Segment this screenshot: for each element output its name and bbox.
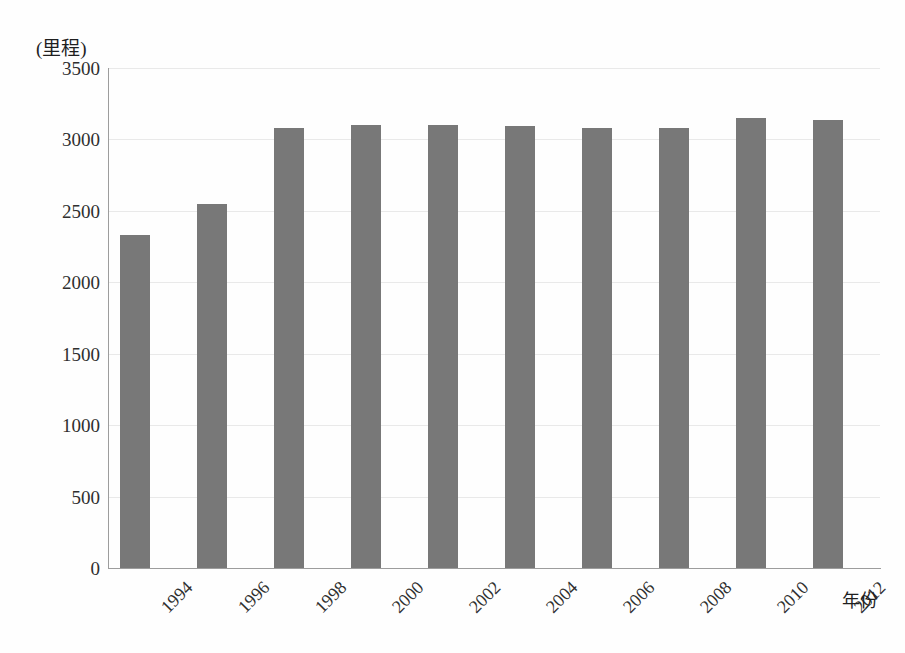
y-axis-tick-label: 1500 [30,344,100,363]
x-axis-tick-label: 1996 [234,578,272,616]
y-axis-tick-label: 2000 [30,273,100,292]
bar [659,128,689,568]
bar [274,128,304,568]
bar [505,126,535,568]
x-axis-tick-label: 2002 [465,578,503,616]
bar [736,118,766,568]
x-axis-tick-label: 2004 [543,578,581,616]
x-axis-tick-label: 1994 [157,578,195,616]
y-axis-tick-label: 0 [30,559,100,578]
y-axis-line [108,68,109,569]
gridline [109,68,880,69]
y-axis-tick-labels: 0500100015002000250030003500 [20,68,100,568]
bar [582,128,612,568]
x-axis-tick-label: 2008 [697,578,735,616]
y-axis-tick-label: 3000 [30,130,100,149]
bar [813,120,843,568]
x-axis-tick-label: 2000 [388,578,426,616]
y-axis-tick-label: 2500 [30,201,100,220]
y-axis-unit-label: (里程) [36,33,87,60]
plot-area [109,68,880,568]
bar [120,235,150,568]
x-axis-tick-labels: 1994199619982000200220042006200820102012 [109,570,880,640]
x-axis-title: 年份 [842,592,878,610]
bar [351,125,381,568]
y-axis-tick-label: 500 [30,487,100,506]
bar-chart: (里程) 0500100015002000250030003500 199419… [0,0,905,653]
x-axis-tick-label: 2006 [620,578,658,616]
bar [428,125,458,568]
x-axis-tick-label: 2010 [774,578,812,616]
y-axis-tick-label: 3500 [30,59,100,78]
x-axis-tick-label: 1998 [311,578,349,616]
bar [197,204,227,568]
y-axis-tick-label: 1000 [30,416,100,435]
